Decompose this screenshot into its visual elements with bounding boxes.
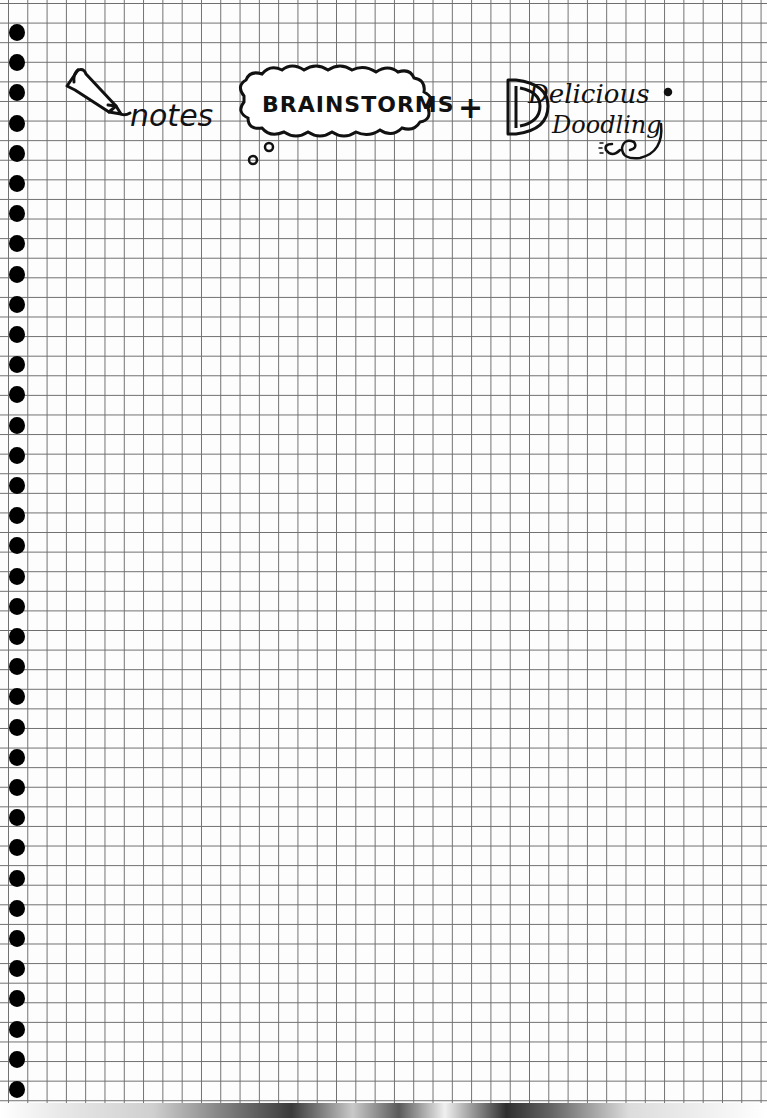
binder-hole [9, 900, 25, 917]
binder-hole [9, 447, 25, 464]
binder-hole [9, 960, 25, 977]
binder-hole [9, 779, 25, 796]
page-header: notes BRAINSTORMS + Delicious Doodling [0, 0, 767, 200]
binder-hole [9, 386, 25, 403]
binder-hole [9, 266, 25, 283]
binder-hole [9, 809, 25, 826]
binder-hole [9, 356, 25, 373]
doodling-label: Doodling [551, 111, 662, 139]
plus-symbol: + [458, 90, 483, 125]
notes-label: notes [130, 98, 213, 133]
brainstorms-label: BRAINSTORMS [262, 92, 455, 117]
binder-hole [9, 688, 25, 705]
binder-hole [9, 870, 25, 887]
binder-hole [9, 1051, 25, 1068]
binder-hole [9, 839, 25, 856]
binder-hole [9, 235, 25, 252]
binder-hole [9, 205, 25, 222]
binder-hole [9, 1021, 25, 1038]
binder-hole [9, 658, 25, 675]
binder-hole [9, 1081, 25, 1098]
graph-paper-page: notes BRAINSTORMS + Delicious Doodling [0, 0, 767, 1103]
binder-hole [9, 537, 25, 554]
pencil-icon [67, 70, 130, 115]
binder-hole [9, 598, 25, 615]
page-bottom-edge [0, 1103, 767, 1118]
binder-hole [9, 719, 25, 736]
binder-hole [9, 296, 25, 313]
binder-hole [9, 628, 25, 645]
binder-hole [9, 749, 25, 766]
binder-hole [9, 568, 25, 585]
binder-hole [9, 930, 25, 947]
binder-hole [9, 326, 25, 343]
binder-hole [9, 507, 25, 524]
binder-hole [9, 477, 25, 494]
delicious-label: Delicious [527, 79, 649, 109]
binder-hole [9, 990, 25, 1007]
binder-hole [9, 417, 25, 434]
header-doodles: notes BRAINSTORMS + Delicious Doodling [0, 0, 767, 200]
